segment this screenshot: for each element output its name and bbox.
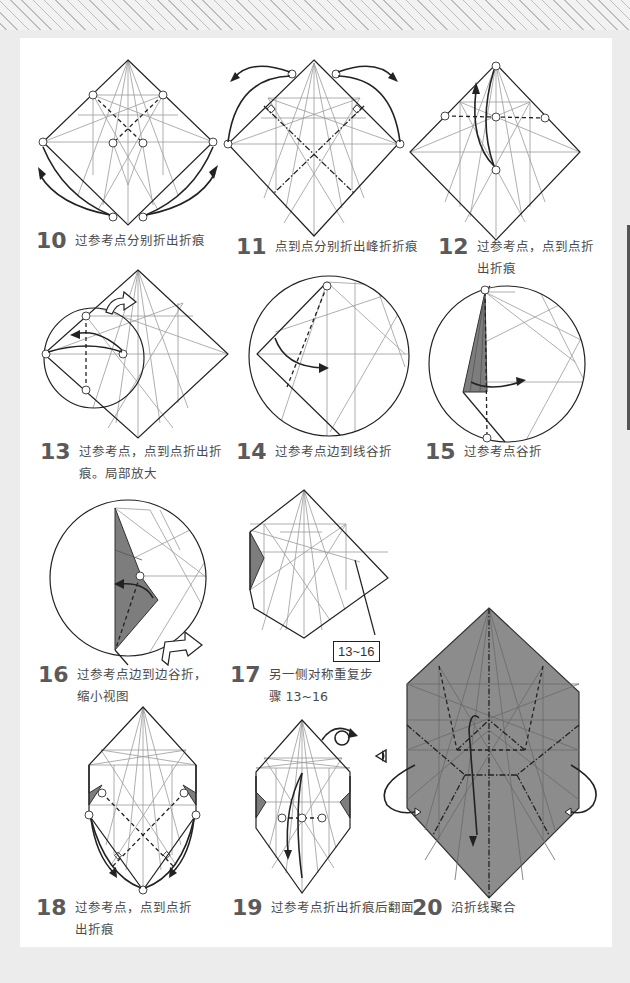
step-number: 15 [425, 441, 456, 463]
top-hatch-border [0, 0, 630, 30]
step-18-caption: 18 过参考点，点到点折 出折痕 [36, 897, 192, 941]
paper-outline [256, 720, 350, 893]
step-10-diagram [38, 55, 218, 225]
step-12-caption: 12 过参考点，点到点折 出折痕 [438, 236, 594, 280]
step-text: 沿折线聚合 [451, 897, 516, 919]
step-17-diagram [250, 490, 390, 640]
crease-pattern [485, 292, 590, 442]
step-15-caption: 15 过参考点谷折 [425, 441, 542, 463]
step-text: 过参考点，点到点折出折 痕。局部放大 [79, 441, 222, 485]
step-number: 13 [40, 441, 71, 463]
folded-flap-left [256, 776, 266, 818]
step-text: 过参考点谷折 [464, 441, 542, 463]
step-15-diagram [425, 282, 590, 447]
crease-pattern [250, 490, 388, 635]
step-text: 过参考点，点到点折 出折痕 [75, 897, 192, 941]
step-12-diagram [410, 62, 585, 237]
step-19-caption: 19 过参考点折出折痕后翻面 [232, 897, 414, 919]
crease-pattern [231, 63, 398, 236]
step-16-diagram [50, 500, 215, 665]
step-text: 另一侧对称重复步 骤 13~16 [269, 664, 373, 708]
step-13-caption: 13 过参考点，点到点折出折 痕。局部放大 [40, 441, 222, 485]
folded-flap [250, 532, 264, 590]
step-number: 11 [236, 236, 267, 258]
step-20-caption: 20 沿折线聚合 [412, 897, 516, 919]
step-17-caption: 17 另一侧对称重复步 骤 13~16 [230, 664, 373, 708]
step-text: 过参考点，点到点折 出折痕 [477, 236, 594, 280]
step-10-caption: 10 过参考点分别折出折痕 [36, 230, 205, 252]
step-18-diagram [86, 705, 206, 895]
crease-pattern [256, 720, 350, 893]
step-text: 过参考点边到线谷折 [275, 441, 392, 463]
step-14-caption: 14 过参考点边到线谷折 [236, 441, 392, 463]
step-text: 点到点分别折出峰折折痕 [275, 236, 418, 258]
step-number: 16 [38, 664, 69, 686]
step-number: 12 [438, 236, 469, 258]
reference-point-markers [278, 814, 326, 822]
step-14-diagram [245, 272, 415, 440]
folded-flap [463, 292, 487, 392]
hollow-arrow-icon [162, 632, 202, 665]
step-number: 14 [236, 441, 267, 463]
fold-arrow-icon [91, 819, 194, 888]
step-number: 10 [36, 230, 67, 252]
reference-point-marker [136, 572, 144, 580]
step-17-reference-label: 13~16 [333, 641, 380, 662]
crease-pattern [410, 64, 580, 237]
step-number: 18 [36, 897, 67, 919]
paper-outline [250, 490, 388, 638]
folded-flap-right [183, 765, 196, 805]
turn-over-arrow-icon [322, 728, 358, 745]
paper-back-side [407, 608, 579, 898]
step-13-diagram [38, 268, 228, 438]
step-number: 19 [232, 897, 263, 919]
step-11-caption: 11 点到点分别折出峰折折痕 [236, 236, 418, 258]
step-20-diagram [375, 600, 590, 900]
step-number: 17 [230, 664, 261, 686]
step-text: 过参考点折出折痕后翻面 [271, 897, 414, 919]
fold-arrow-icon [275, 338, 329, 373]
zoom-circle [249, 276, 409, 436]
paper-edge [463, 392, 505, 442]
crease-pattern [43, 60, 213, 223]
folded-flap [115, 508, 158, 650]
zoom-circle [44, 308, 144, 408]
step-number: 20 [412, 897, 443, 919]
folded-flap-right [340, 776, 350, 818]
callout-leader-line [355, 560, 375, 635]
step-16-caption: 16 过参考点边到边谷折， 缩小视图 [38, 664, 207, 708]
folded-flap-left [89, 765, 102, 805]
step-text: 过参考点边到边谷折， 缩小视图 [77, 664, 207, 708]
step-text: 过参考点分别折出折痕 [75, 230, 205, 252]
reference-point-marker [323, 282, 331, 290]
step-11-diagram [226, 58, 406, 238]
crease-pattern [44, 270, 228, 438]
